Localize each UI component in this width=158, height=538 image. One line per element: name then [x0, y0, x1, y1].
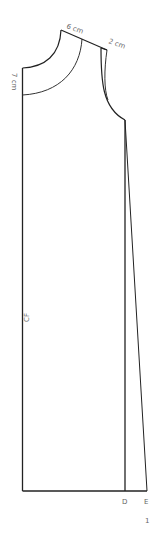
side-seam-e [125, 120, 147, 491]
pattern-diagram: 6 cm 2 cm 7 cm CF D E 1 [0, 0, 158, 538]
shoulder-line [61, 30, 107, 50]
figure-number: 1 [145, 517, 149, 525]
center-front-label: CF [23, 313, 31, 322]
outer-neckline [23, 30, 62, 68]
armhole-inner-curve [105, 50, 108, 100]
point-d-label: D [122, 498, 127, 506]
neck-width-label: 6 cm [65, 22, 84, 36]
point-e-label: E [144, 498, 148, 506]
shoulder-extra-label: 2 cm [107, 37, 126, 51]
neck-drop-label: 7 cm [10, 73, 18, 91]
